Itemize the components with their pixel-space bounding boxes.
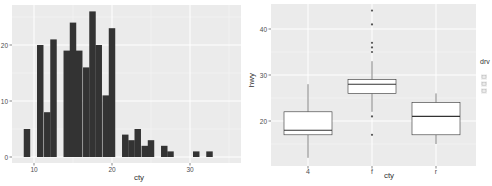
histogram-bar <box>142 146 148 157</box>
histogram-bar <box>50 39 56 157</box>
boxplot-chart: 203040 4fr cty hwy drv <box>246 0 492 186</box>
histogram-bar <box>148 140 154 157</box>
outlier-point <box>371 23 373 25</box>
histogram-bar <box>37 45 43 157</box>
histogram-bar <box>193 151 199 157</box>
legend-key-f <box>481 81 487 87</box>
svg-text:f: f <box>371 168 373 175</box>
x-axis-ticks: 4fr <box>306 166 438 175</box>
y-axis-title: hwy <box>247 73 256 87</box>
outlier-point <box>371 51 373 53</box>
histogram-bar <box>64 51 70 157</box>
svg-text:40: 40 <box>260 26 268 33</box>
histogram-bar <box>161 146 167 157</box>
svg-text:10: 10 <box>30 166 38 173</box>
svg-text:20: 20 <box>108 166 116 173</box>
histogram-panel: 01020 102030 cty <box>0 0 246 186</box>
histogram-bar <box>83 67 89 157</box>
svg-text:30: 30 <box>186 166 194 173</box>
histogram-bar <box>89 11 95 157</box>
svg-text:0: 0 <box>4 154 8 161</box>
outlier-point <box>371 115 373 117</box>
histogram-bar <box>135 129 141 157</box>
x-axis-title: cty <box>384 171 394 180</box>
histogram-bar <box>24 129 30 157</box>
histogram-bar <box>109 28 115 157</box>
legend-key-4 <box>481 74 487 80</box>
svg-text:r: r <box>435 168 438 175</box>
svg-text:20: 20 <box>260 118 268 125</box>
legend: drv <box>480 58 490 94</box>
histogram-bar <box>103 95 109 157</box>
svg-text:4: 4 <box>306 168 310 175</box>
legend-title: drv <box>480 58 490 65</box>
outlier-point <box>371 134 373 136</box>
y-axis-ticks: 01020 <box>1 42 12 161</box>
histogram-bar <box>44 112 50 157</box>
histogram-bar <box>206 151 212 157</box>
histogram-bar <box>122 135 128 157</box>
svg-text:10: 10 <box>1 98 9 105</box>
outlier-point <box>371 42 373 44</box>
histogram-bar <box>167 151 173 157</box>
x-axis-ticks: 102030 <box>30 163 194 173</box>
svg-text:30: 30 <box>260 72 268 79</box>
histogram-bar <box>76 51 82 157</box>
histogram-bar <box>70 23 76 157</box>
legend-key-r <box>481 88 487 94</box>
boxplot-panel: 203040 4fr cty hwy drv <box>246 0 492 186</box>
histogram-bar <box>128 140 134 157</box>
x-axis-title: cty <box>134 173 144 182</box>
outlier-point <box>371 46 373 48</box>
outlier-point <box>371 10 373 12</box>
y-axis-ticks: 203040 <box>260 26 271 125</box>
histogram-bar <box>96 45 102 157</box>
svg-text:20: 20 <box>1 42 9 49</box>
histogram-chart: 01020 102030 cty <box>0 0 246 186</box>
